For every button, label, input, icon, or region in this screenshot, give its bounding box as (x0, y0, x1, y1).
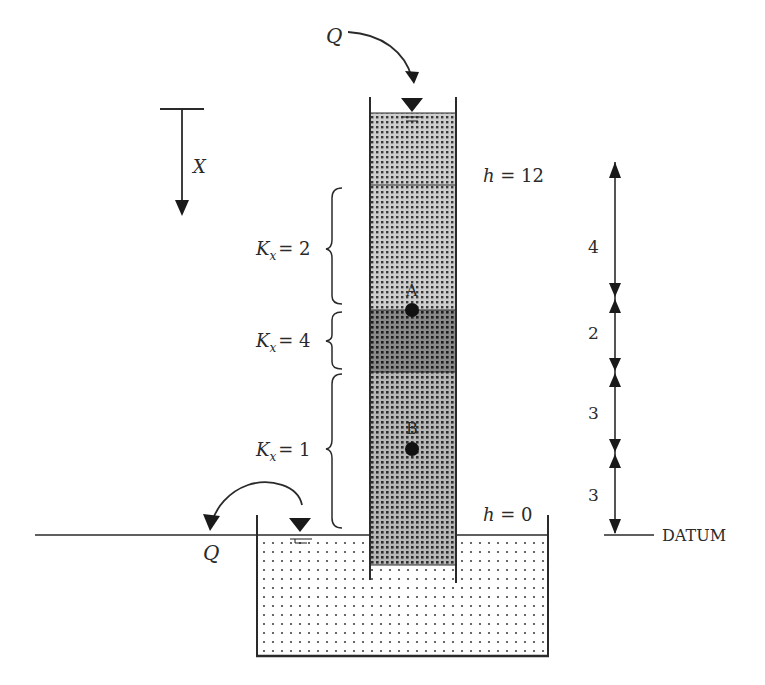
point-b-marker (405, 442, 419, 456)
outflow-arrow-icon (203, 482, 302, 531)
layer-kx4-label: Kx= 4 (255, 330, 311, 355)
point-a-marker (405, 303, 419, 317)
soil-column (370, 97, 456, 583)
x-axis-label: X (191, 156, 207, 177)
water-level-icon-tank (289, 518, 312, 543)
diagram-canvas: Q Q X h = 12 h = 0 Kx= 2 Kx= 4 Kx= 1 A B (0, 0, 765, 685)
layer-kx4 (370, 310, 456, 372)
brace-kx1-icon (326, 374, 342, 528)
datum-label: DATUM (662, 526, 726, 545)
dimension-4: 4 (588, 237, 599, 257)
point-b-label: B (406, 419, 418, 438)
inflow-label: Q (326, 24, 342, 48)
layer-kx1-label: Kx= 1 (255, 439, 311, 464)
top-sand-layer (370, 113, 456, 185)
outflow-label: Q (203, 541, 219, 565)
brace-kx4-icon (326, 312, 342, 369)
brace-kx2-icon (326, 188, 342, 304)
dimension-2: 2 (588, 323, 599, 343)
layer-kx1 (370, 372, 456, 565)
dimension-chain (609, 162, 621, 534)
layer-kx2-label: Kx= 2 (255, 238, 311, 263)
inflow-arrow-icon (348, 32, 419, 84)
dimension-3-upper: 3 (588, 403, 599, 423)
point-a-label: A (405, 281, 418, 300)
dimension-3-lower: 3 (588, 485, 599, 505)
head-top-label: h = 12 (483, 165, 544, 186)
head-bottom-label: h = 0 (483, 504, 533, 525)
